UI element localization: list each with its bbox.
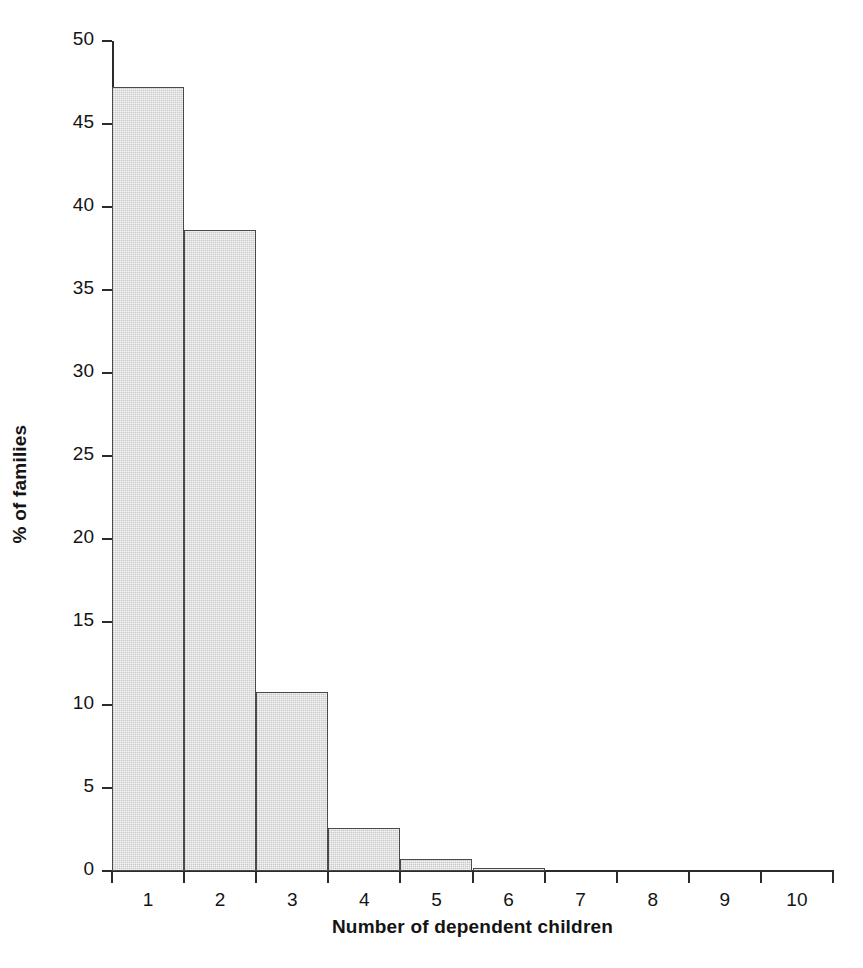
x-tick-label: 6 bbox=[473, 889, 545, 911]
y-tick: 20 bbox=[102, 538, 112, 540]
y-tick: 40 bbox=[102, 206, 112, 208]
y-tick: 25 bbox=[102, 455, 112, 457]
y-tick-label: 30 bbox=[73, 361, 94, 381]
x-tick bbox=[255, 872, 257, 883]
x-tick-label: 7 bbox=[545, 889, 617, 911]
histogram-figure: % of families 05101520253035404550 12345… bbox=[0, 0, 863, 968]
bar bbox=[112, 87, 184, 871]
y-tick-label: 15 bbox=[73, 610, 94, 630]
y-tick-label: 45 bbox=[73, 112, 94, 132]
x-tick bbox=[183, 872, 185, 883]
bar bbox=[328, 828, 400, 871]
x-tick-label: 1 bbox=[112, 889, 184, 911]
y-tick-label: 35 bbox=[73, 278, 94, 298]
bar bbox=[184, 230, 256, 871]
x-axis-title: Number of dependent children bbox=[112, 916, 833, 938]
x-tick-label: 8 bbox=[617, 889, 689, 911]
x-tick-label: 2 bbox=[184, 889, 256, 911]
y-tick-label: 50 bbox=[73, 29, 94, 49]
x-tick bbox=[472, 872, 474, 883]
y-tick-label: 25 bbox=[73, 444, 94, 464]
y-axis-title-text: % of families bbox=[9, 425, 31, 544]
bar bbox=[400, 859, 472, 871]
x-tick bbox=[760, 872, 762, 883]
x-tick bbox=[544, 872, 546, 883]
y-tick: 15 bbox=[102, 621, 112, 623]
x-tick bbox=[399, 872, 401, 883]
x-tick bbox=[327, 872, 329, 883]
bar bbox=[256, 692, 328, 871]
x-tick bbox=[616, 872, 618, 883]
x-tick-label: 10 bbox=[761, 889, 833, 911]
y-tick: 50 bbox=[102, 40, 112, 42]
x-tick-label: 5 bbox=[400, 889, 472, 911]
y-tick: 5 bbox=[102, 787, 112, 789]
y-tick: 10 bbox=[102, 704, 112, 706]
x-tick bbox=[688, 872, 690, 883]
y-tick-label: 40 bbox=[73, 195, 94, 215]
x-tick-label: 4 bbox=[328, 889, 400, 911]
y-tick: 35 bbox=[102, 289, 112, 291]
x-tick bbox=[832, 872, 834, 883]
y-tick-label: 0 bbox=[83, 859, 94, 879]
y-tick-label: 20 bbox=[73, 527, 94, 547]
y-tick: 45 bbox=[102, 123, 112, 125]
y-tick-label: 10 bbox=[73, 693, 94, 713]
x-tick-label: 9 bbox=[689, 889, 761, 911]
y-axis-title: % of families bbox=[0, 0, 40, 968]
plot-area: 05101520253035404550 12345678910 bbox=[112, 41, 833, 871]
y-tick: 30 bbox=[102, 372, 112, 374]
x-tick-label: 3 bbox=[256, 889, 328, 911]
x-tick bbox=[111, 872, 113, 883]
y-tick-label: 5 bbox=[83, 776, 94, 796]
bar bbox=[473, 868, 545, 871]
